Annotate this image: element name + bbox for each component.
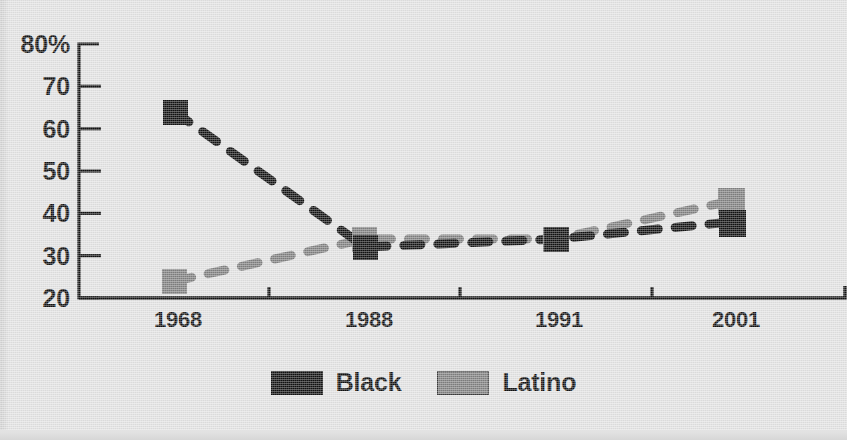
legend-item-latino: Latino (437, 368, 576, 397)
x-tick-label-1991: 1991 (535, 307, 583, 333)
y-tick-label-70: 70 (4, 72, 70, 101)
y-tick-label-30: 30 (4, 242, 70, 271)
x-tick-label-1988: 1988 (345, 307, 393, 333)
y-tick-label-40: 40 (4, 199, 70, 228)
x-tick-label-1968: 1968 (154, 307, 202, 333)
legend-label-black: Black (336, 368, 402, 397)
x-axis-line (79, 286, 845, 298)
legend-item-black: Black (271, 368, 402, 397)
x-tick-label-2001: 2001 (712, 307, 760, 333)
legend-label-latino: Latino (502, 368, 576, 397)
y-tick-label-60: 60 (4, 115, 70, 144)
legend-swatch-black-icon (271, 371, 323, 395)
y-axis-ticks (79, 86, 101, 255)
chart-legend: Black Latino (0, 368, 847, 397)
page-bottom-edge-shadow (0, 430, 847, 440)
y-tick-label-80: 80% (4, 30, 70, 59)
y-tick-label-50: 50 (4, 157, 70, 186)
line-chart: 80% 70 60 50 40 30 20 1968 1988 1991 200… (0, 0, 847, 440)
y-tick-label-20: 20 (4, 284, 70, 313)
series-line-black (175, 112, 731, 247)
legend-swatch-latino-icon (437, 371, 489, 395)
